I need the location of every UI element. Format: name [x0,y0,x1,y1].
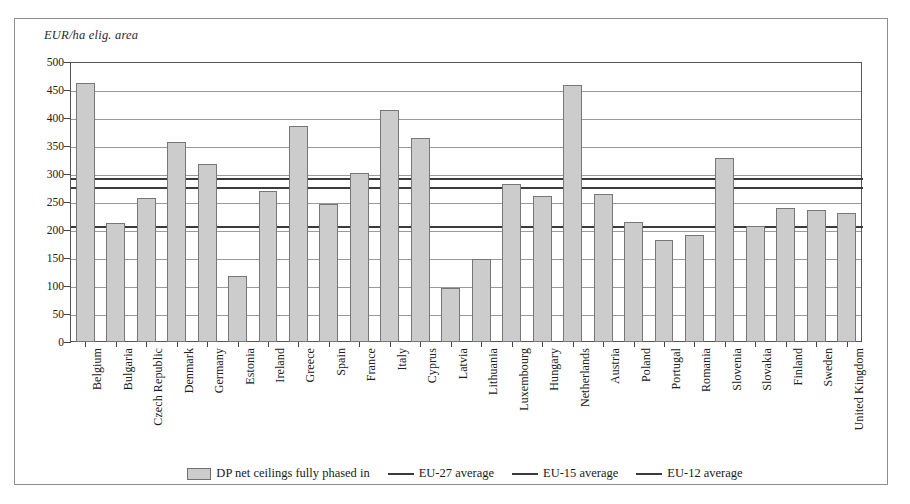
bar[interactable] [259,191,278,342]
bar[interactable] [411,138,430,342]
x-axis-label: Belgium [90,348,105,390]
y-tick-label: 50 [30,308,64,320]
x-tick-mark [786,342,787,347]
bar[interactable] [837,213,856,342]
x-axis-label: Germany [212,348,227,393]
x-axis-label: United Kingdom [852,348,867,430]
bar[interactable] [380,110,399,342]
bar-slot [137,62,156,342]
bar-slot [198,62,217,342]
bar-slot [76,62,95,342]
bar[interactable] [807,210,826,342]
x-tick-mark [816,342,817,347]
bar-slot [594,62,613,342]
bar-slot [380,62,399,342]
x-tick-mark [238,342,239,347]
x-axis-label: Portugal [669,348,684,389]
bar[interactable] [289,126,308,342]
x-tick-mark [146,342,147,347]
bar-slot [167,62,186,342]
legend-label-eu15: EU-15 average [543,466,618,481]
x-axis-label: Poland [639,348,654,382]
bar-slot [655,62,674,342]
bar[interactable] [228,276,247,342]
bar-swatch-icon [187,468,211,480]
legend-label-bars: DP net ceilings fully phased in [216,466,369,481]
bar[interactable] [533,196,552,342]
bar[interactable] [594,194,613,342]
x-axis-label: Bulgaria [121,348,136,390]
x-tick-mark [116,342,117,347]
y-tick-label: 200 [30,224,64,236]
bar[interactable] [137,198,156,342]
legend-item-eu27[interactable]: EU-27 average [388,466,494,481]
legend-item-bars[interactable]: DP net ceilings fully phased in [187,466,369,481]
bar-slot [533,62,552,342]
bar[interactable] [472,259,491,342]
x-tick-mark [177,342,178,347]
x-axis-label: Luxembourg [517,348,532,411]
legend-item-eu15[interactable]: EU-15 average [512,466,618,481]
bar[interactable] [350,173,369,342]
bar-slot [746,62,765,342]
x-axis-label: Hungary [547,348,562,391]
bar[interactable] [715,158,734,342]
bar-slot [259,62,278,342]
bar[interactable] [76,83,95,342]
y-axis-unit-label: EUR/ha elig. area [44,28,138,43]
bar-slot [715,62,734,342]
bar[interactable] [624,222,643,342]
bar[interactable] [655,240,674,342]
bar[interactable] [319,204,338,342]
y-tick-mark [64,342,70,343]
bar[interactable] [746,226,765,342]
bar-slot [837,62,856,342]
x-axis-label-group: BelgiumBulgariaCzech RepublicDenmarkGerm… [70,346,862,458]
bar-slot [776,62,795,342]
x-axis-label: Sweden [821,348,836,387]
bar-slot [502,62,521,342]
y-tick-label: 0 [30,336,64,348]
y-tick-label: 400 [30,112,64,124]
bar-slot [106,62,125,342]
bar[interactable] [685,235,704,342]
x-tick-mark [420,342,421,347]
y-tick-label: 300 [30,168,64,180]
x-axis-label: Finland [791,348,806,385]
y-tick-label: 450 [30,84,64,96]
x-tick-mark [694,342,695,347]
bar-slot [319,62,338,342]
bar-slot [411,62,430,342]
x-tick-mark [298,342,299,347]
x-tick-mark [755,342,756,347]
x-axis-label: Lithuania [486,348,501,395]
x-tick-mark [664,342,665,347]
x-tick-mark [359,342,360,347]
x-tick-mark [512,342,513,347]
x-axis-label: Ireland [273,348,288,383]
bar[interactable] [441,288,460,342]
x-axis-label: Slovakia [760,348,775,391]
bar[interactable] [106,223,125,342]
x-axis-label: Spain [334,348,349,376]
line-swatch-icon [512,473,538,475]
x-axis-label: Latvia [456,348,471,379]
x-tick-mark [603,342,604,347]
x-tick-mark [573,342,574,347]
legend-label-eu27: EU-27 average [419,466,494,481]
legend-item-eu12[interactable]: EU-12 average [636,466,742,481]
bar-slot [472,62,491,342]
x-axis-label: Czech Republic [151,348,166,426]
x-axis-label: Greece [303,348,318,383]
bar[interactable] [167,142,186,342]
bar[interactable] [563,85,582,342]
y-tick-label: 250 [30,196,64,208]
bar[interactable] [776,208,795,342]
x-tick-mark [390,342,391,347]
bar-slot [685,62,704,342]
y-tick-label: 500 [30,56,64,68]
x-axis-label: Cyprus [425,348,440,383]
x-axis-label: Slovenia [730,348,745,391]
bar[interactable] [502,184,521,342]
bar[interactable] [198,164,217,342]
